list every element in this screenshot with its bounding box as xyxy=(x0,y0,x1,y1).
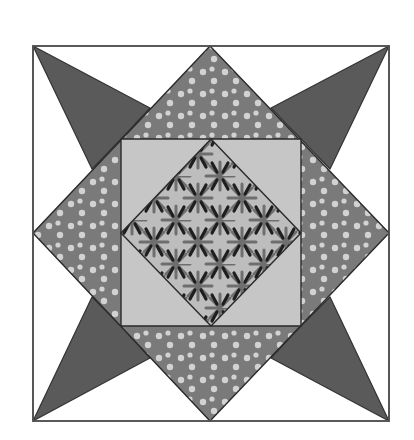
quilt-block-illustration xyxy=(0,0,414,440)
